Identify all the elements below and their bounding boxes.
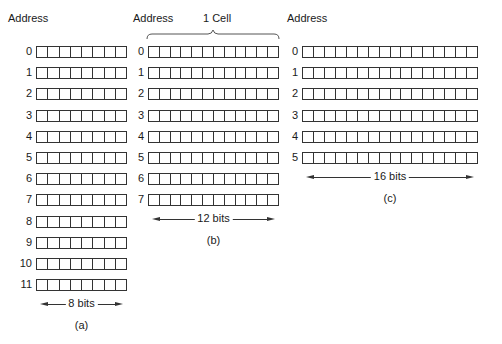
bit-box	[92, 238, 103, 248]
bit-box	[213, 111, 224, 121]
bit-box	[256, 68, 267, 78]
bit-box	[37, 195, 47, 205]
bit-box	[70, 238, 81, 248]
bit-box	[104, 174, 115, 184]
bit-box	[422, 132, 433, 142]
bit-box	[37, 153, 47, 163]
address-header: Address	[287, 12, 327, 24]
bit-box	[335, 68, 346, 78]
address-label: 0	[130, 45, 144, 57]
bit-box	[335, 111, 346, 121]
bit-box	[324, 68, 335, 78]
bit-box	[37, 280, 47, 290]
bit-box	[149, 47, 159, 57]
bit-box	[47, 195, 58, 205]
memory-cell	[302, 46, 478, 58]
bit-box	[422, 47, 433, 57]
bit-box	[368, 132, 379, 142]
bit-box	[70, 153, 81, 163]
bit-box	[149, 111, 159, 121]
bit-box	[444, 153, 455, 163]
address-label: 7	[130, 193, 144, 205]
bit-box	[59, 153, 70, 163]
bit-box	[191, 153, 202, 163]
bit-box	[400, 132, 411, 142]
bit-box	[37, 217, 47, 227]
bit-box	[70, 259, 81, 269]
bit-box	[81, 238, 92, 248]
bit-box	[245, 195, 256, 205]
bit-box	[357, 111, 368, 121]
bit-box	[202, 68, 213, 78]
bit-box	[224, 132, 235, 142]
address-label: 1	[284, 66, 298, 78]
bit-box	[115, 195, 126, 205]
bit-box	[59, 89, 70, 99]
bit-box	[245, 174, 256, 184]
memory-cell	[148, 131, 279, 143]
bit-box	[346, 132, 357, 142]
bit-box	[213, 68, 224, 78]
bit-box	[224, 89, 235, 99]
memory-cell	[148, 194, 279, 206]
bit-box	[104, 259, 115, 269]
bit-box	[390, 153, 401, 163]
bit-box	[149, 89, 159, 99]
bit-box	[81, 68, 92, 78]
bit-box	[70, 195, 81, 205]
address-label: 11	[18, 278, 32, 290]
memory-cell	[148, 110, 279, 122]
bit-box	[170, 132, 181, 142]
memory-cell	[36, 67, 127, 79]
bit-box	[422, 68, 433, 78]
bit-box	[202, 195, 213, 205]
bit-box	[466, 47, 477, 57]
bit-box	[104, 238, 115, 248]
cell-label: 1 Cell	[203, 12, 231, 24]
address-label: 10	[18, 257, 32, 269]
bits-width-arrow: 16 bits	[306, 172, 474, 182]
bit-box	[455, 132, 466, 142]
bit-box	[92, 259, 103, 269]
bit-box	[191, 111, 202, 121]
panel-caption: (a)	[75, 319, 88, 331]
bit-box	[368, 89, 379, 99]
memory-cell	[36, 237, 127, 249]
bit-box	[224, 153, 235, 163]
bit-box	[455, 153, 466, 163]
bit-box	[59, 174, 70, 184]
address-label: 0	[284, 45, 298, 57]
bit-box	[346, 89, 357, 99]
memory-cell	[148, 88, 279, 100]
address-header: Address	[133, 12, 173, 24]
bit-box	[368, 47, 379, 57]
bit-box	[115, 238, 126, 248]
bit-box	[267, 68, 278, 78]
bit-box	[379, 89, 390, 99]
memory-cell	[302, 152, 478, 164]
bit-box	[37, 111, 47, 121]
address-label: 1	[130, 66, 144, 78]
bit-box	[213, 132, 224, 142]
bit-box	[357, 89, 368, 99]
bit-box	[444, 47, 455, 57]
memory-cell	[148, 67, 279, 79]
memory-cell	[36, 131, 127, 143]
bit-box	[390, 132, 401, 142]
bit-box	[313, 47, 324, 57]
bit-box	[104, 195, 115, 205]
bit-box	[224, 47, 235, 57]
bit-box	[444, 68, 455, 78]
bit-box	[70, 132, 81, 142]
bit-box	[324, 111, 335, 121]
bit-box	[313, 89, 324, 99]
bit-box	[213, 47, 224, 57]
bit-box	[357, 153, 368, 163]
bit-box	[104, 280, 115, 290]
bit-box	[235, 111, 246, 121]
arrow-right-icon	[466, 175, 474, 179]
bit-box	[433, 153, 444, 163]
bit-box	[37, 238, 47, 248]
bit-box	[59, 259, 70, 269]
memory-cell	[302, 110, 478, 122]
